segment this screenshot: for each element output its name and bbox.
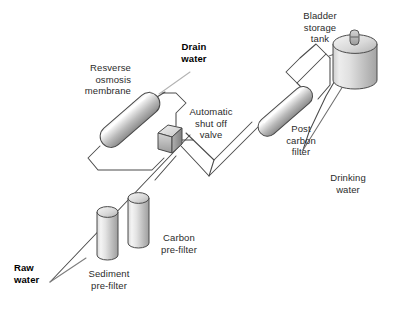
label-raw-water: Raw water — [14, 262, 39, 285]
ro-system-diagram: Raw water Sediment pre-filter Carbon pre… — [0, 0, 393, 311]
label-drain-water: Drain water — [166, 41, 222, 64]
label-bladder-storage-tank: Bladder storage tank — [290, 10, 350, 45]
label-ro-membrane: Resverse osmosis membrane — [18, 62, 131, 97]
label-post-carbon-filter: Post carbon filter — [277, 123, 325, 158]
sediment-prefilter-shape — [97, 207, 118, 260]
label-carbon-prefilter: Carbon pre-filter — [143, 232, 215, 255]
label-sediment-prefilter: Sediment pre-filter — [66, 268, 152, 291]
pipe-postcarbon-to-tank — [286, 44, 330, 86]
label-drinking-water: Drinking water — [316, 172, 380, 195]
ro-membrane-shape — [96, 88, 165, 152]
label-automatic-shutoff-valve: Automatic shut off valve — [179, 106, 243, 141]
pipe-raw-water-inlet — [50, 135, 190, 282]
pipe-ro-bottom-loop — [88, 146, 164, 170]
leader-drain-water — [159, 72, 190, 94]
